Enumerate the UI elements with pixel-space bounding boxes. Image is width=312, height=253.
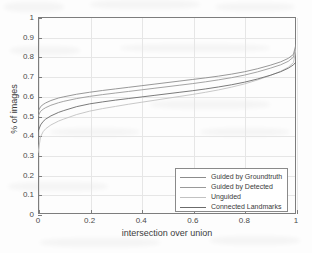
x-tick-label: 0.2	[84, 216, 95, 225]
x-tick-label: 0.6	[187, 216, 198, 225]
legend-label: Guided by Groundtruth	[211, 172, 282, 182]
y-tick-label: 0.8	[8, 52, 34, 61]
legend-item[interactable]: Guided by Groundtruth	[180, 172, 287, 182]
gridline-vertical	[297, 18, 298, 213]
legend-swatch	[180, 207, 206, 208]
y-tick-label: 0.9	[8, 32, 34, 41]
y-axis-label: % of images	[9, 69, 19, 149]
legend-swatch	[180, 177, 206, 178]
series-line	[38, 44, 296, 111]
x-tick-label: 0	[36, 216, 40, 225]
y-tick-label: 0.3	[8, 150, 34, 159]
series-line	[38, 47, 296, 117]
y-tick-label: 0.1	[8, 190, 34, 199]
x-tick-label: 0.4	[136, 216, 147, 225]
chart-legend: Guided by GroundtruthGuided by DetectedU…	[175, 168, 288, 212]
scan-artifact	[40, 238, 160, 247]
scan-artifact	[215, 3, 295, 11]
y-tick-label: 0	[8, 210, 34, 219]
series-line	[38, 49, 296, 153]
legend-label: Guided by Detected	[211, 182, 273, 192]
scan-artifact	[90, 0, 200, 9]
x-axis-label: intersection over union	[38, 228, 296, 238]
legend-swatch	[180, 197, 206, 198]
legend-swatch	[180, 187, 206, 188]
legend-label: Unguided	[211, 192, 241, 202]
y-tick-label: 0.2	[8, 170, 34, 179]
legend-item[interactable]: Unguided	[180, 192, 287, 202]
scan-artifact	[4, 2, 64, 12]
x-tick	[297, 210, 298, 214]
y-tick-label: 1	[8, 13, 34, 22]
chart-figure: 00.20.40.60.81 00.10.20.30.40.50.60.70.8…	[0, 0, 312, 253]
legend-label: Connected Landmarks	[211, 202, 281, 212]
legend-item[interactable]: Connected Landmarks	[180, 202, 287, 212]
x-tick-label: 1	[294, 216, 298, 225]
x-tick-label: 0.8	[239, 216, 250, 225]
legend-item[interactable]: Guided by Detected	[180, 182, 287, 192]
